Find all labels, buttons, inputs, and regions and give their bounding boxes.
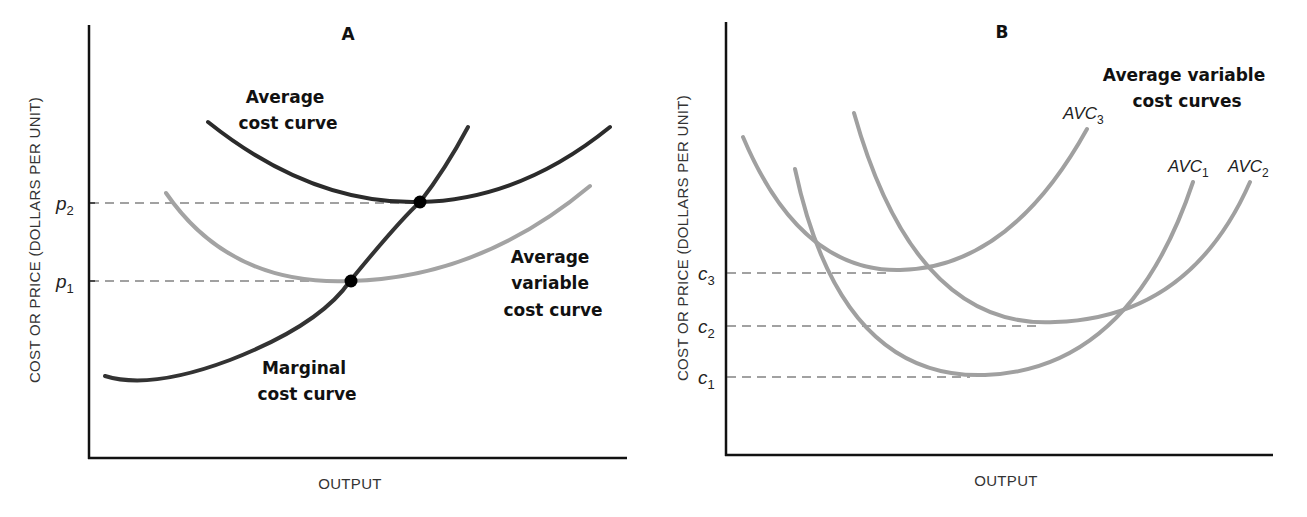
point-mc-ac-intersection [414,196,427,209]
panel-b: B OUTPUT COST OR PRICE (DOLLARS PER UNIT… [674,22,1273,489]
panel-b-title: B [996,22,1009,42]
label-average-cost-curve: Average cost curve [238,87,337,133]
legend-average-variable-cost-curves: Average variable cost curves [1103,65,1271,111]
label-c2: c2 [698,316,715,341]
panel-a-y-label: COST OR PRICE (DOLLARS PER UNIT) [26,97,43,383]
label-avc1: AVC1 [1167,157,1209,180]
label-p1: p1 [55,271,74,296]
label-avc3: AVC3 [1062,104,1104,127]
label-c1: c1 [698,367,715,392]
average-cost-curve [208,122,610,202]
point-mc-avc-intersection [345,275,358,288]
label-marginal-cost-curve: Marginal cost curve [257,358,356,404]
label-avc2: AVC2 [1227,157,1269,180]
panel-a: A OUTPUT COST OR PRICE (DOLLARS PER UNIT… [26,24,627,492]
marginal-cost-curve [105,127,468,380]
label-c3: c3 [698,263,715,288]
panel-a-title: A [341,24,355,44]
label-average-variable-cost-curve: Average variable cost curve [503,247,602,320]
panel-b-y-label: COST OR PRICE (DOLLARS PER UNIT) [674,95,691,381]
panel-b-x-label: OUTPUT [974,472,1037,489]
avc2-curve [854,113,1250,322]
label-p2: p2 [55,193,74,218]
panel-a-x-label: OUTPUT [318,475,381,492]
figure: A OUTPUT COST OR PRICE (DOLLARS PER UNIT… [0,0,1307,517]
avc1-curve [795,169,1193,375]
